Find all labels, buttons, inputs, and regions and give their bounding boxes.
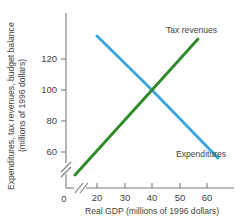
- x-tick-label-50: 50: [175, 192, 186, 203]
- x-axis-title: Real GDP (millions of 1996 dollars): [85, 206, 219, 216]
- x-tick-label-20: 20: [92, 192, 103, 203]
- x-tick-label-30: 30: [120, 192, 131, 203]
- y-tick-label-120: 120: [41, 53, 57, 64]
- y-axis-title-line1: Expenditures, tax revenues, budget balan…: [6, 22, 16, 190]
- y-tick-label-60: 60: [46, 146, 57, 157]
- x-tick-label-40: 40: [147, 192, 158, 203]
- y-tick-label-80: 80: [46, 115, 57, 126]
- series-label-tax-revenues: Tax revenues: [166, 25, 217, 35]
- x-tick-label-60: 60: [202, 192, 213, 203]
- series-label-expenditures: Expenditures: [176, 149, 226, 159]
- y-tick-label-100: 100: [41, 84, 57, 95]
- line-chart: 60 80 100 120 0 20 30 40 50 60 Real GDP …: [0, 0, 242, 220]
- chart-figure: 60 80 100 120 0 20 30 40 50 60 Real GDP …: [0, 0, 242, 220]
- origin-label: 0: [61, 193, 66, 204]
- y-axis-title-line2: (millions of 1996 dollars): [17, 59, 27, 152]
